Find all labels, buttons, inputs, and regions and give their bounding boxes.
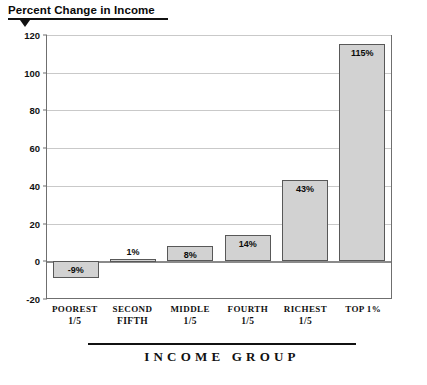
bar-value-label: 14% [226,239,270,249]
x-axis-category-label: POOREST1/5 [46,303,104,327]
y-axis-tick-label: 60 [29,143,40,154]
y-axis-tick-label: 40 [29,180,40,191]
bar[interactable]: -9% [53,261,99,278]
x-axis-title-block: INCOME GROUP [88,343,356,365]
category-label-line2: 1/5 [46,315,104,327]
category-label-line1: SECOND [104,303,162,315]
bar[interactable]: 8% [167,246,213,261]
bar[interactable]: 43% [282,180,328,261]
chart-title-block: Percent Change in Income [8,4,168,27]
category-label-line2: 1/5 [219,315,277,327]
bar[interactable]: 14% [225,235,271,261]
bars-group: -9%1%8%14%43%115% [47,35,391,298]
bar-slot: 8% [162,35,219,298]
y-axis-tick-label: 100 [24,67,40,78]
y-axis-tick-label: 120 [24,30,40,41]
category-label-line1: TOP 1% [334,303,392,315]
bar[interactable]: 115% [339,44,385,261]
y-axis-tick-mark [43,299,47,300]
bar-value-label: 115% [340,48,384,58]
y-axis-tick-label: 20 [29,218,40,229]
bar-value-label: -9% [54,265,98,275]
x-axis-category-label: MIDDLE1/5 [161,303,219,327]
bar-slot: 14% [219,35,276,298]
down-triangle-icon [20,20,30,27]
category-label-line2: 1/5 [277,315,335,327]
bar[interactable]: 1% [110,259,156,262]
x-axis-category-labels: POOREST1/5SECONDFIFTHMIDDLE1/5FOURTH1/5R… [46,303,392,337]
x-axis-category-label: TOP 1% [334,303,392,315]
category-label-line2: FIFTH [104,315,162,327]
category-label-line2: 1/5 [161,315,219,327]
bar-value-label: 1% [111,247,155,257]
x-axis-category-label: RICHEST1/5 [277,303,335,327]
x-axis-title-rule [88,343,356,345]
bar-value-label: 43% [283,184,327,194]
chart-plot-area: -20020406080100120 -9%1%8%14%43%115% [46,35,392,299]
chart-plot-wrapper: -20020406080100120 -9%1%8%14%43%115% [46,35,392,299]
page-title: Percent Change in Income [8,4,168,17]
title-underline [8,18,168,20]
bar-slot: -9% [47,35,104,298]
category-label-line1: POOREST [46,303,104,315]
bar-value-label: 8% [168,250,212,260]
x-axis-title: INCOME GROUP [88,349,356,365]
bar-slot: 43% [276,35,333,298]
y-axis-tick-label: 0 [35,256,40,267]
x-axis-category-label: SECONDFIFTH [104,303,162,327]
y-axis-tick-label: -20 [26,294,40,305]
bar-slot: 1% [104,35,161,298]
x-axis-category-label: FOURTH1/5 [219,303,277,327]
bar-slot: 115% [334,35,391,298]
y-axis-tick-label: 80 [29,105,40,116]
category-label-line1: FOURTH [219,303,277,315]
category-label-line1: RICHEST [277,303,335,315]
category-label-line1: MIDDLE [161,303,219,315]
